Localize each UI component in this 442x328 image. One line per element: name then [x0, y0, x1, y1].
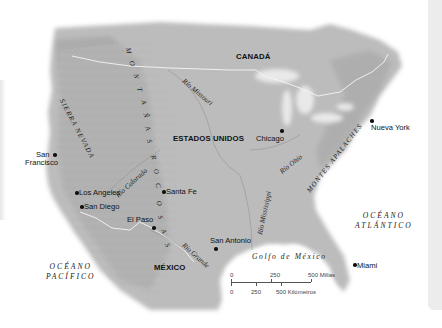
city-label: San Antonio — [210, 237, 251, 245]
gulf-label: Golfo de México — [252, 252, 327, 262]
city-label: Francisco — [25, 159, 58, 167]
city-label: Chicago — [256, 135, 284, 143]
ocean-label-line: PACÍFICO — [46, 272, 96, 282]
city-dot-icon — [75, 191, 79, 195]
ocean-label-line: ATLÁNTICO — [355, 221, 413, 231]
label-letter: M — [124, 47, 132, 54]
label-letter: N — [131, 73, 139, 79]
city-label: Santa Fe — [166, 188, 197, 196]
scale-label-miles-500: 500 Millas — [308, 272, 335, 278]
country-label-usa: ESTADOS UNIDOS — [173, 135, 244, 143]
city-dot-icon — [80, 205, 84, 209]
country-label-canada: CANADÁ — [236, 53, 270, 61]
ocean-label-line: OCÉANO — [355, 211, 413, 221]
city-label: Nueva York — [371, 124, 410, 132]
scale-label-km-250: 250 — [251, 289, 261, 295]
scale-label-km-0: 0 — [230, 289, 233, 295]
scale-tick — [311, 279, 312, 282]
city-label: El Paso — [127, 216, 153, 224]
city-label: San Diego — [84, 203, 119, 211]
label-letter: C — [153, 182, 161, 188]
relief-texture — [56, 40, 180, 300]
city-dot-icon — [152, 226, 156, 230]
ocean-label-atlantic: OCÉANO ATLÁNTICO — [355, 211, 413, 231]
scale-label-km-500: 500 Kilómetros — [276, 289, 316, 295]
scale-tick — [271, 279, 272, 282]
city-label: Miami — [357, 262, 377, 270]
scale-label-miles-0: 0 — [230, 272, 233, 278]
scale-label-miles-250: 250 — [270, 272, 280, 278]
city-dot-icon — [353, 263, 357, 267]
city-dot-icon — [53, 153, 57, 157]
ocean-label-line: OCÉANO — [46, 262, 96, 272]
city-dot-icon — [162, 190, 166, 194]
city-dot-icon — [280, 129, 284, 133]
scale-line — [231, 282, 311, 283]
ocean-label-pacific: OCÉANO PACÍFICO — [46, 262, 96, 282]
country-label-mexico: MÉXICO — [154, 264, 185, 272]
city-dot-icon — [370, 119, 374, 123]
city-dot-icon — [214, 247, 218, 251]
scale-tick — [256, 283, 257, 286]
scale-bar: 0 250 500 Millas 0 250 500 Kilómetros — [230, 272, 330, 302]
scale-tick — [281, 283, 282, 286]
scale-tick — [231, 279, 232, 286]
